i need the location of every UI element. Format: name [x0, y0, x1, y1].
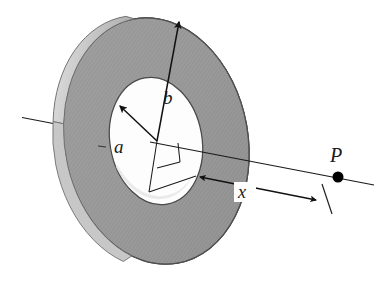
figure-container: a b x P: [0, 0, 386, 282]
point-p-label: P: [329, 144, 342, 166]
axial-distance-label: x: [237, 182, 246, 202]
outer-radius-label: b: [163, 87, 173, 108]
point-p-marker: [333, 172, 344, 183]
inner-radius-label: a: [114, 136, 124, 157]
annulus-diagram: a b x P: [0, 0, 386, 282]
